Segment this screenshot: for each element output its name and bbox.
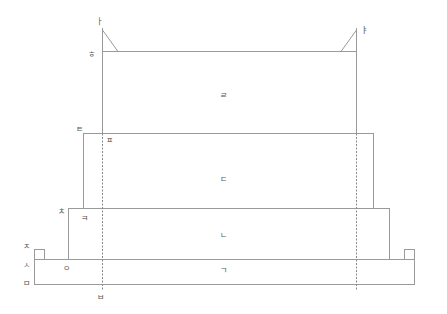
tier-3-box [84, 134, 374, 209]
label-base-inner: ㅇ [63, 265, 70, 273]
label-top-left-mark: ㅏ [96, 18, 103, 26]
label-tier-1: ㄱ [220, 267, 227, 275]
label-top-box-corner: ㅎ [88, 51, 95, 59]
label-tier-2-inner: ㅋ [81, 215, 88, 223]
label-tier-3: ㄷ [220, 176, 227, 184]
tier-2-box [69, 209, 390, 260]
label-tier-4: ㄹ [220, 92, 227, 100]
right-small-box [405, 250, 415, 260]
label-center-bottom-mark: ㅂ [97, 294, 104, 302]
right-triangle-edge [341, 30, 357, 52]
left-triangle-edge [103, 30, 119, 52]
label-top-right-mark: ㅑ [361, 27, 368, 35]
left-small-box [35, 250, 45, 260]
label-base-side-mark: ㅅ [23, 262, 30, 270]
label-tier-3-inner: ㅍ [106, 137, 113, 145]
label-base-top-mark: ㅈ [23, 243, 30, 251]
label-tier-3-corner: ㅌ [76, 126, 83, 134]
tier-4-box [103, 52, 357, 134]
label-base-bottom-mark: ㅁ [23, 280, 30, 288]
label-tier-2-corner: ㅊ [58, 208, 65, 216]
label-tier-2: ㄴ [220, 232, 227, 240]
